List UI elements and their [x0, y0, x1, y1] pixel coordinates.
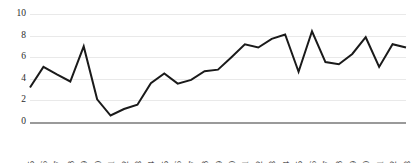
y-tick-label: 8 — [4, 31, 26, 41]
y-tick-label: 10 — [4, 9, 26, 19]
x-tick-label: 1988 — [67, 161, 76, 163]
x-tick-label: 2000 — [228, 161, 237, 163]
x-tick-label: 2011 — [376, 161, 385, 163]
x-tick-label: 1987 — [53, 161, 62, 163]
y-tick-label: 2 — [4, 96, 26, 106]
x-tick-label: 2008 — [335, 161, 344, 163]
x-tick-label: 1999 — [215, 161, 224, 163]
x-tick-label: 2007 — [322, 161, 331, 163]
x-tick-label: 1997 — [188, 161, 197, 163]
x-tick-label: 1985 — [27, 161, 36, 163]
x-tick-label: 2001 — [241, 161, 250, 163]
x-tick-label: 2012 — [389, 161, 398, 163]
x-tick-label: 1989 — [80, 161, 89, 163]
y-tick-label: 6 — [4, 52, 26, 62]
line-chart: 0246810 19851986198719881989199019911992… — [0, 0, 413, 163]
y-tick-label: 4 — [4, 74, 26, 84]
x-axis: 1985198619871988198919901991199219931994… — [30, 124, 406, 163]
y-tick-label: 0 — [4, 117, 26, 127]
x-tick-label: 1986 — [40, 161, 49, 163]
x-tick-label: 2013 — [403, 161, 412, 163]
x-tick-label: 2005 — [295, 161, 304, 163]
y-axis: 0246810 — [0, 0, 26, 163]
x-tick-label: 1998 — [201, 161, 210, 163]
x-tick-label: 2002 — [255, 161, 264, 163]
series-line-group — [30, 14, 406, 122]
x-tick-label: 1991 — [107, 161, 116, 163]
x-tick-label: 1993 — [134, 161, 143, 163]
x-tick-label: 1996 — [174, 161, 183, 163]
x-tick-label: 2010 — [362, 161, 371, 163]
x-tick-label: 1990 — [94, 161, 103, 163]
series-line-1 — [30, 31, 406, 115]
x-tick-label: 1995 — [161, 161, 170, 163]
x-tick-label: 2003 — [268, 161, 277, 163]
x-tick-label: 2006 — [309, 161, 318, 163]
x-tick-label: 2004 — [282, 161, 291, 163]
plot-area — [30, 14, 406, 122]
x-tick-label: 1994 — [147, 161, 156, 163]
x-tick-label: 2009 — [349, 161, 358, 163]
x-tick-label: 1992 — [121, 161, 130, 163]
